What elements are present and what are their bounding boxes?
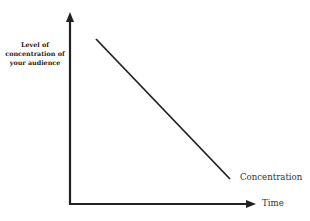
concentration-diagram: Level of concentration of your audience … [0,0,310,221]
diagram-canvas [0,0,310,221]
series-label-concentration: Concentration [240,172,302,182]
x-axis-arrow-icon [246,200,256,208]
y-axis-label: Level of concentration of your audience [2,41,68,68]
concentration-line [96,39,230,179]
y-axis-label-line-2: concentration of [2,50,68,59]
y-axis-arrow-icon [66,12,74,22]
x-axis-label: Time [262,198,284,208]
y-axis-label-line-3: your audience [2,59,68,68]
y-axis-label-line-1: Level of [2,41,68,50]
